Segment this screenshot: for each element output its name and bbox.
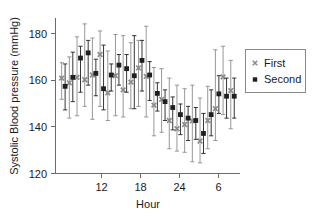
- y-tick-label-160: 160: [29, 74, 47, 86]
- marker-square: [101, 86, 106, 91]
- y-tick-label-120: 120: [29, 168, 47, 180]
- data-point: [221, 46, 226, 114]
- legend-label-first: First: [264, 57, 285, 69]
- data-point: [105, 51, 110, 121]
- marker-square: [209, 112, 214, 117]
- systolic-blood-pressure-chart: 180 160 140 120 12 18 24 6 Hour Systolic…: [0, 0, 315, 222]
- marker-square: [86, 50, 91, 55]
- data-point: [209, 90, 214, 136]
- marker-square: [163, 99, 168, 104]
- data-point: [144, 26, 149, 117]
- data-point: [124, 55, 129, 93]
- marker-square: [224, 94, 229, 99]
- data-series-layer: [59, 24, 236, 163]
- data-point: [224, 78, 229, 118]
- data-point: [121, 36, 126, 117]
- data-point: [67, 57, 72, 118]
- marker-square: [78, 56, 83, 61]
- y-axis-tick-labels: 180 160 140 120: [29, 28, 47, 180]
- marker-square: [201, 131, 206, 136]
- data-point: [117, 55, 122, 86]
- data-point: [152, 67, 157, 135]
- data-point: [167, 78, 172, 149]
- marker-square: [216, 91, 221, 96]
- data-point: [201, 113, 206, 153]
- data-point: [136, 40, 141, 106]
- marker-square: [147, 73, 152, 78]
- data-point: [232, 78, 237, 118]
- x-axis-tick-labels: 12 18 24 6: [95, 181, 221, 193]
- data-point: [90, 38, 95, 119]
- x-tick-label-12: 12: [95, 181, 107, 193]
- legend-label-second: Second: [264, 73, 301, 85]
- marker-square: [178, 112, 183, 117]
- marker-square: [193, 118, 198, 123]
- marker-square: [186, 116, 191, 121]
- marker-square: [70, 75, 75, 80]
- x-tick-label-18: 18: [134, 181, 146, 193]
- data-point: [175, 85, 180, 151]
- data-point: [147, 62, 152, 101]
- data-point: [170, 97, 175, 130]
- data-point: [101, 45, 106, 110]
- x-tick-label-6: 6: [215, 181, 221, 193]
- marker-square: [63, 84, 68, 89]
- y-axis-ticks: [51, 34, 56, 174]
- data-point: [113, 34, 118, 115]
- marker-square: [117, 63, 122, 68]
- marker-square: [155, 91, 160, 96]
- data-point: [132, 36, 137, 109]
- data-point: [82, 24, 87, 106]
- marker-square: [140, 58, 145, 63]
- legend-marker-square: [253, 77, 257, 81]
- series-second: [63, 36, 237, 154]
- y-axis-title: Systolic Blood pressure (mmHg): [8, 17, 20, 175]
- data-point: [59, 63, 64, 100]
- marker-square: [170, 105, 175, 110]
- data-point: [163, 90, 168, 121]
- chart-figure: 180 160 140 120 12 18 24 6 Hour Systolic…: [0, 0, 315, 222]
- data-point: [190, 85, 195, 162]
- data-point: [70, 52, 75, 101]
- data-point: [75, 37, 80, 116]
- marker-square: [124, 66, 129, 71]
- y-tick-label-140: 140: [29, 121, 47, 133]
- series-first: [59, 24, 233, 163]
- data-point: [98, 31, 103, 106]
- marker-square: [232, 94, 237, 99]
- marker-square: [109, 73, 114, 78]
- data-point: [205, 86, 210, 148]
- marker-square: [93, 71, 98, 76]
- data-point: [63, 64, 68, 110]
- data-point: [78, 46, 83, 92]
- marker-square: [132, 73, 137, 78]
- x-axis-ticks: [102, 174, 219, 179]
- y-tick-label-180: 180: [29, 28, 47, 40]
- x-tick-label-24: 24: [173, 181, 185, 193]
- x-axis-title: Hour: [136, 198, 160, 210]
- chart-legend: First Second: [246, 50, 306, 93]
